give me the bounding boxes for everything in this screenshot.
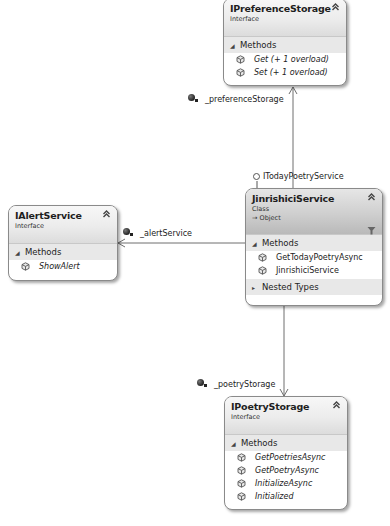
method-icon [236,55,250,65]
method-icon [258,253,272,263]
method-icon [236,68,250,78]
section-label: Methods [240,40,276,50]
member-name: JinrishiciService [272,266,339,275]
shape-jinrishiciservice[interactable]: JinrishiciService Class → Object ◢ Metho… [245,188,383,306]
method-icon [258,266,272,276]
association-name: _preferenceStorage [205,95,284,104]
member-name: GetTodayPoetryAsync [272,253,363,262]
member-name: Get (+ 1 overload) [250,55,329,64]
section-methods[interactable]: ◢ Methods [246,235,382,251]
double-chevron-up-icon[interactable] [331,400,341,410]
member-name: GetPoetryAsync [251,466,319,475]
member-name: Set (+ 1 overload) [250,68,328,77]
method-icon [237,492,251,502]
method-icon [237,453,251,463]
method-icon [237,466,251,476]
member-gettodaypoetryasync[interactable]: GetTodayPoetryAsync [246,251,382,264]
section-label: Methods [241,438,277,448]
section-methods[interactable]: ◢ Methods [224,37,346,53]
double-chevron-up-icon[interactable] [330,2,340,12]
section-label: Nested Types [262,282,319,292]
association-label-poetrystorage[interactable]: _poetryStorage [197,379,275,389]
class-diagram-canvas[interactable]: IPreferenceStorage Interface ◢ Methods G… [0,0,390,526]
section-label: Methods [25,247,61,257]
double-chevron-up-icon[interactable] [366,192,376,202]
shape-ipreferencestorage[interactable]: IPreferenceStorage Interface ◢ Methods G… [223,0,347,86]
member-getpoetriesasync[interactable]: GetPoetriesAsync [225,451,347,464]
member-name: Initialized [251,492,294,501]
field-icon [197,379,209,389]
shape-header[interactable]: IAlertService Interface [9,206,117,244]
shape-kind: Class [252,205,376,214]
member-jinrishiciservice-ctor[interactable]: JinrishiciService [246,264,382,277]
shape-kind: Interface [15,222,111,231]
expanded-triangle-icon[interactable]: ◢ [231,440,241,447]
shape-title: IPoetryStorage [231,401,341,413]
shape-header[interactable]: IPreferenceStorage Interface [224,0,346,37]
member-getpoetryasync[interactable]: GetPoetryAsync [225,464,347,477]
expanded-triangle-icon[interactable]: ◢ [15,249,25,256]
expanded-triangle-icon[interactable]: ◢ [230,42,240,49]
method-icon [21,262,35,272]
member-initialized[interactable]: Initialized [225,490,347,503]
field-icon [123,228,135,238]
section-label: Methods [262,238,298,248]
shape-base-type: → Object [252,214,376,223]
member-name: InitializeAsync [251,479,312,488]
shape-title: IAlertService [15,210,111,222]
method-icon [237,479,251,489]
shape-kind: Interface [231,413,341,422]
shape-ipoetrystorage[interactable]: IPoetryStorage Interface ◢ Methods GetPo… [224,396,348,510]
shape-header[interactable]: IPoetryStorage Interface [225,397,347,435]
association-name: _alertService [140,229,192,238]
association-label-preferencestorage[interactable]: _preferenceStorage [188,94,284,104]
member-name: ShowAlert [35,262,80,271]
section-methods[interactable]: ◢ Methods [9,244,117,260]
member-name: GetPoetriesAsync [251,453,325,462]
member-get[interactable]: Get (+ 1 overload) [224,53,346,66]
association-name: _poetryStorage [214,380,275,389]
shape-kind: Interface [230,15,340,24]
shape-header[interactable]: JinrishiciService Class → Object [246,189,382,235]
lollipop-label: ITodayPoetryService [263,172,344,181]
association-label-alertservice[interactable]: _alertService [123,228,192,238]
section-nested-types[interactable]: ▸ Nested Types [246,279,382,295]
member-set[interactable]: Set (+ 1 overload) [224,66,346,79]
shape-title: JinrishiciService [252,193,376,205]
filter-icon[interactable] [367,220,377,230]
interface-lollipop-icon [253,173,260,180]
member-initializeasync[interactable]: InitializeAsync [225,477,347,490]
double-chevron-up-icon[interactable] [101,209,111,219]
shape-title: IPreferenceStorage [230,3,340,15]
interface-lollipop[interactable]: ITodayPoetryService [253,172,344,181]
shape-ialertservice[interactable]: IAlertService Interface ◢ Methods ShowAl… [8,205,118,281]
section-methods[interactable]: ◢ Methods [225,435,347,451]
field-icon [188,94,200,104]
member-showalert[interactable]: ShowAlert [9,260,117,273]
collapsed-triangle-icon[interactable]: ▸ [252,284,262,291]
expanded-triangle-icon[interactable]: ◢ [252,240,262,247]
